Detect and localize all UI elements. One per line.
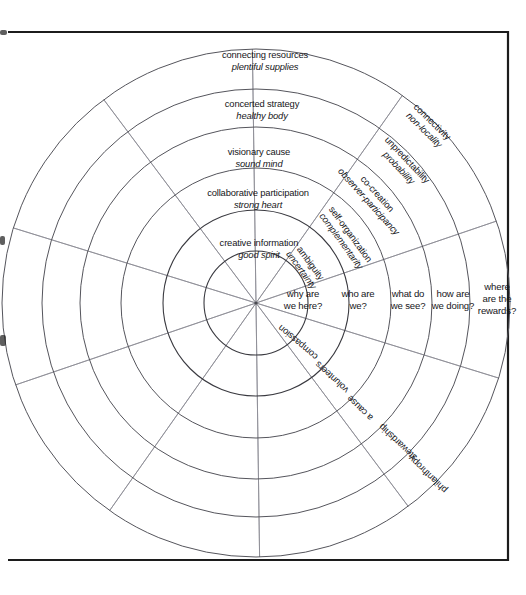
diagram-label: a cause bbox=[344, 393, 374, 423]
diagram-label: connecting resources bbox=[222, 49, 309, 60]
diagram-label: we see? bbox=[390, 300, 426, 311]
diagram-label: good spirit bbox=[238, 249, 280, 260]
diagram-label: collaborative participation bbox=[207, 187, 309, 198]
diagram-label: what do bbox=[391, 288, 425, 299]
diagram-label: why are bbox=[286, 288, 320, 299]
diagram-label: how are bbox=[436, 288, 469, 299]
diagram-label: compassion bbox=[276, 323, 320, 363]
diagram-label: strong heart bbox=[234, 199, 283, 210]
diagram-label: concerted strategy bbox=[225, 98, 300, 109]
diagram-label: we? bbox=[348, 300, 366, 311]
diagram-label: plentiful supplies bbox=[231, 61, 299, 72]
diagram-label: visionary cause bbox=[228, 146, 290, 157]
diagram-label: we doing? bbox=[431, 300, 474, 311]
diagram-label: where bbox=[483, 281, 509, 292]
center-hub bbox=[254, 301, 257, 304]
concentric-circle-diagram: connecting resourcesplentiful suppliesco… bbox=[0, 0, 526, 595]
diagram-canvas: connecting resourcesplentiful suppliesco… bbox=[0, 0, 526, 595]
diagram-label: volunteers bbox=[312, 359, 350, 396]
diagram-label: philanthropy bbox=[406, 453, 449, 496]
edge-artifacts bbox=[0, 30, 7, 346]
diagram-label: rewards? bbox=[478, 305, 516, 316]
diagram-label: sound mind bbox=[236, 158, 284, 169]
diagram-label: are the bbox=[483, 293, 512, 304]
diagram-label: who are bbox=[340, 288, 374, 299]
label-group: connecting resourcesplentiful suppliesco… bbox=[207, 49, 516, 496]
diagram-label: creative information bbox=[220, 237, 299, 248]
diagram-label: we here? bbox=[283, 300, 322, 311]
diagram-label: healthy body bbox=[236, 110, 289, 121]
